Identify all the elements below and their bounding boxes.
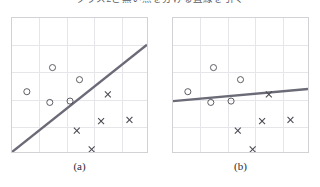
data-point-circle [24, 89, 30, 95]
data-point-circle [210, 65, 216, 71]
data-point-cross [74, 128, 80, 134]
data-point-circle [237, 77, 243, 83]
decision-boundary-line [173, 89, 308, 101]
data-point-cross [89, 146, 95, 152]
data-point-circle [185, 89, 191, 95]
plot-canvas-a [12, 18, 147, 152]
scatter-plot-b [172, 17, 309, 153]
caption-a: (a) [11, 160, 148, 172]
plot-canvas-b [173, 18, 308, 152]
caption-b: (b) [172, 160, 309, 172]
decision-boundary-line [12, 45, 147, 152]
data-point-circle [49, 65, 55, 71]
data-point-cross [98, 118, 104, 124]
figure-root: クラス2と黒い点を分ける直線を引く (a) (b) [0, 0, 320, 187]
scatter-plot-a [11, 17, 148, 153]
data-point-cross [105, 91, 111, 97]
data-point-cross [287, 117, 293, 123]
cropped-header-text: クラス2と黒い点を分ける直線を引く [0, 0, 320, 3]
data-point-circle [76, 77, 82, 83]
data-point-cross [259, 118, 265, 124]
data-point-circle [208, 99, 214, 105]
data-point-circle [47, 99, 53, 105]
data-point-circle [228, 98, 234, 104]
data-point-cross [126, 117, 132, 123]
data-point-cross [235, 128, 241, 134]
data-point-cross [250, 146, 256, 152]
data-point-circle [67, 98, 73, 104]
